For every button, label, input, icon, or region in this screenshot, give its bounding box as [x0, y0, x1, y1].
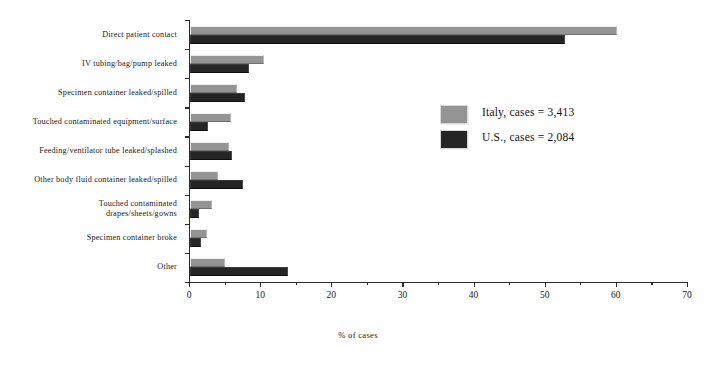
x-axis-title: % of cases [0, 330, 716, 340]
y-axis-tick [185, 49, 189, 50]
legend-label-us: U.S., cases = 2,084 [482, 131, 574, 143]
category-axis-labels: Direct patient contactIV tubing/bag/pump… [0, 20, 183, 282]
bar-italy [190, 142, 229, 151]
x-axis-tick-minor [296, 282, 297, 285]
x-axis-tick-label: 20 [316, 290, 346, 300]
y-axis-tick [185, 166, 189, 167]
x-axis-tick-major [474, 282, 475, 287]
x-axis-tick-label: 40 [459, 290, 489, 300]
legend-label-italy: Italy, cases = 3,413 [482, 106, 574, 118]
bar-us [190, 35, 565, 44]
bar-italy [190, 258, 225, 267]
x-axis-tick-major [331, 282, 332, 287]
bar-us [190, 122, 208, 131]
x-axis-tick-major [687, 282, 688, 287]
x-axis-tick-label: 30 [387, 290, 417, 300]
category-label: Feeding/ventilator tube leaked/splashed [1, 146, 177, 156]
bar-italy [190, 229, 207, 238]
bar-us [190, 151, 232, 160]
bar-us [190, 267, 288, 276]
category-label: Touched contaminated equipment/surface [1, 117, 177, 127]
category-label: Direct patient contact [1, 30, 177, 40]
y-axis-tick [185, 195, 189, 196]
y-axis-tick [185, 253, 189, 254]
bar-us [190, 209, 199, 218]
bar-italy [190, 55, 264, 64]
category-label: Other [1, 262, 177, 272]
bar-chart: Direct patient contactIV tubing/bag/pump… [0, 0, 716, 370]
y-axis-tick [185, 224, 189, 225]
x-axis-tick-major [545, 282, 546, 287]
x-axis-tick-label: 0 [174, 290, 204, 300]
x-axis-tick-minor [438, 282, 439, 285]
category-label: Specimen container leaked/spilled [1, 88, 177, 98]
bar-italy [190, 26, 617, 35]
x-axis-tick-label: 10 [245, 290, 275, 300]
bar-us [190, 93, 245, 102]
legend-swatch-us [440, 130, 468, 149]
category-label: Touched contaminated drapes/sheets/gowns [1, 199, 177, 219]
x-axis-tick-label: 70 [672, 290, 702, 300]
bar-italy [190, 113, 231, 122]
x-axis-tick-major [189, 282, 190, 287]
y-axis-tick [185, 107, 189, 108]
bar-us [190, 238, 201, 247]
x-axis-tick-minor [651, 282, 652, 285]
bar-italy [190, 84, 237, 93]
legend-item-us: U.S., cases = 2,084 [440, 128, 670, 153]
category-label: Other body fluid container leaked/spille… [1, 175, 177, 185]
y-axis-tick [185, 78, 189, 79]
x-axis-tick-minor [225, 282, 226, 285]
x-axis-tick-label: 60 [601, 290, 631, 300]
y-axis-tick [185, 20, 189, 21]
x-axis-tick-major [616, 282, 617, 287]
bar-us [190, 180, 243, 189]
legend-item-italy: Italy, cases = 3,413 [440, 103, 670, 128]
x-axis-tick-major [402, 282, 403, 287]
bar-italy [190, 200, 212, 209]
chart-legend: Italy, cases = 3,413 U.S., cases = 2,084 [440, 103, 670, 153]
x-axis-tick-label: 50 [530, 290, 560, 300]
legend-swatch-italy [440, 105, 468, 124]
x-axis-tick-minor [509, 282, 510, 285]
category-label: Specimen container broke [1, 233, 177, 243]
x-axis-tick-minor [580, 282, 581, 285]
bar-us [190, 64, 249, 73]
bar-italy [190, 171, 218, 180]
x-axis-tick-minor [367, 282, 368, 285]
y-axis-tick [185, 136, 189, 137]
x-axis-tick-major [260, 282, 261, 287]
category-label: IV tubing/bag/pump leaked [1, 59, 177, 69]
